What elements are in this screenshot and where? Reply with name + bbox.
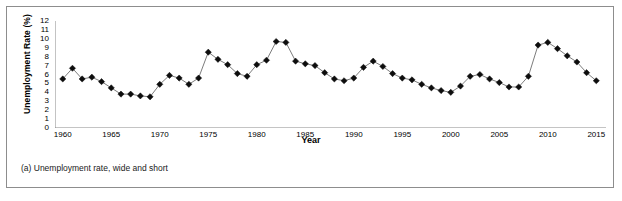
y-axis-title: Unemployment Rate (%) — [22, 4, 32, 124]
y-tick-label: 3 — [33, 97, 49, 105]
y-tick-label: 5 — [33, 79, 49, 87]
data-point-marker — [389, 71, 395, 77]
data-point-marker — [89, 74, 95, 80]
data-point-marker — [564, 53, 570, 59]
data-point-marker — [302, 61, 308, 67]
unemployment-rate-line-chart — [55, 21, 606, 128]
data-point-marker — [496, 79, 502, 85]
data-point-marker — [186, 81, 192, 87]
data-point-marker — [273, 38, 279, 44]
y-tick-label: 4 — [33, 88, 49, 96]
series-line — [63, 42, 597, 97]
data-point-marker — [370, 58, 376, 64]
y-tick-label: 8 — [33, 53, 49, 61]
data-point-marker — [399, 75, 405, 81]
data-point-marker — [438, 87, 444, 93]
data-point-marker — [409, 77, 415, 83]
plot-area — [55, 21, 606, 128]
data-point-marker — [448, 89, 454, 95]
data-point-marker — [205, 49, 211, 55]
y-tick-label: 11 — [33, 26, 49, 34]
data-point-marker — [195, 75, 201, 81]
data-point-marker — [506, 84, 512, 90]
data-point-marker — [477, 71, 483, 77]
data-point-marker — [545, 39, 551, 45]
data-point-marker — [215, 56, 221, 62]
data-point-marker — [380, 63, 386, 69]
y-tick-label: 9 — [33, 44, 49, 52]
y-axis-tick-labels: 0123456789101112 — [33, 21, 49, 128]
data-point-marker — [486, 76, 492, 82]
data-point-marker — [98, 79, 104, 85]
data-point-marker — [554, 46, 560, 52]
series-markers — [60, 38, 600, 99]
data-point-marker — [283, 39, 289, 45]
data-point-marker — [322, 70, 328, 76]
data-point-marker — [108, 85, 114, 91]
data-point-marker — [419, 81, 425, 87]
data-point-marker — [137, 93, 143, 99]
data-point-marker — [341, 78, 347, 84]
data-point-marker — [292, 58, 298, 64]
y-tick-label: 6 — [33, 71, 49, 79]
data-point-marker — [535, 42, 541, 48]
figure-caption: (a) Unemployment rate, wide and short — [21, 163, 168, 173]
data-point-marker — [118, 91, 124, 97]
y-tick-label: 12 — [33, 17, 49, 25]
data-point-marker — [428, 85, 434, 91]
data-point-marker — [331, 76, 337, 82]
y-tick-label: 10 — [33, 35, 49, 43]
data-point-marker — [263, 57, 269, 63]
y-tick-label: 1 — [33, 115, 49, 123]
data-point-marker — [312, 62, 318, 68]
axis-lines — [55, 21, 606, 128]
x-axis-title: Year — [7, 135, 615, 145]
data-point-marker — [176, 75, 182, 81]
chart-region: Unemployment Rate (%) 0123456789101112 1… — [7, 7, 615, 159]
y-tick-label: 7 — [33, 62, 49, 70]
data-point-marker — [128, 91, 134, 97]
y-tick-label: 2 — [33, 106, 49, 114]
figure-frame: Unemployment Rate (%) 0123456789101112 1… — [6, 6, 614, 188]
